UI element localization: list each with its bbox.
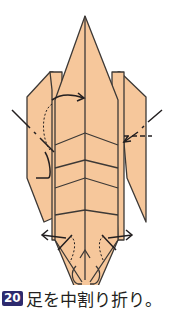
- central-body: [55, 16, 118, 285]
- step-instruction: 足を中割り折り。: [26, 286, 162, 311]
- step-number-badge: 20: [2, 291, 23, 306]
- step-caption: 20 足を中割り折り。: [2, 287, 162, 309]
- origami-fold-diagram: [0, 0, 178, 285]
